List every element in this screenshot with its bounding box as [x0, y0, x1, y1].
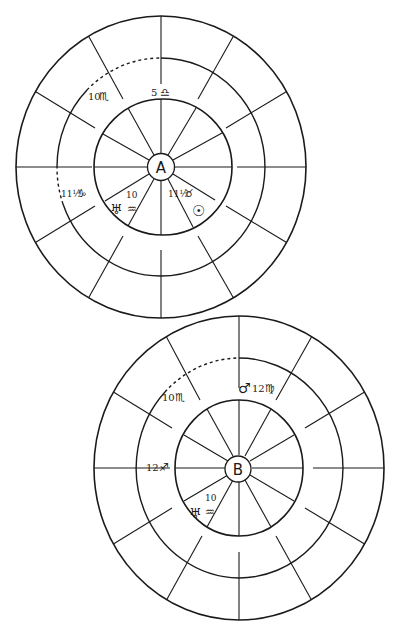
scorpio-icon: ♏	[175, 391, 185, 404]
mars-icon: ♂	[238, 380, 251, 396]
uranus-icon: ♅	[189, 505, 202, 521]
svg-text:10: 10	[162, 392, 175, 403]
aquarius-icon: ♒	[127, 203, 137, 216]
virgo-icon: ♍	[265, 382, 275, 395]
chart-b: B 10 ♏ ♂ 12 ♍ 12 ♐ ♅ 10 ♒	[94, 316, 384, 620]
chart-a-label-cusp-10-scorpio: 10 ♏	[88, 90, 109, 103]
svg-text:12: 12	[252, 383, 265, 394]
chart-b-label-cusp-12-sagittarius: 12 ♐	[146, 461, 169, 474]
chart-b-label-mars-12-virgo: ♂ 12 ♍	[238, 380, 275, 396]
aquarius-icon: ♒	[205, 506, 215, 519]
sun-icon: ☉	[192, 202, 205, 220]
chart-a-label-sun: ☉	[192, 202, 205, 220]
svg-text:12: 12	[146, 462, 159, 473]
chart-a: A 5 ♎ 10 ♏ 11½ ♑ ♅ 10 ♒ 11½ ♉ ☉	[16, 16, 306, 318]
chart-a-center-label: A	[156, 159, 167, 177]
chart-b-label-cusp-10-scorpio: 10 ♏	[162, 391, 185, 404]
taurus-icon: ♉	[184, 187, 194, 200]
libra-icon: ♎	[160, 86, 170, 99]
chart-a-label-cusp-11half-capricorn: 11½ ♑	[61, 187, 87, 200]
uranus-icon: ♅	[110, 201, 123, 217]
chart-a-label-cusp-5-libra: 5 ♎	[151, 86, 170, 99]
svg-text:10: 10	[126, 190, 138, 200]
chart-b-label-uranus-10-aquarius: ♅ 10 ♒	[189, 493, 217, 521]
capricorn-icon: ♑	[77, 187, 87, 200]
astrology-wheels-figure: A 5 ♎ 10 ♏ 11½ ♑ ♅ 10 ♒ 11½ ♉ ☉	[0, 0, 397, 633]
chart-a-label-cusp-11half-taurus: 11½ ♉	[168, 187, 194, 200]
chart-a-label-uranus-10-aquarius: ♅ 10 ♒	[110, 190, 138, 217]
svg-text:10: 10	[205, 493, 217, 503]
scorpio-icon: ♏	[99, 90, 109, 103]
chart-b-center-label: B	[233, 461, 243, 479]
sagittarius-icon: ♐	[159, 461, 169, 474]
svg-text:5: 5	[151, 87, 157, 98]
